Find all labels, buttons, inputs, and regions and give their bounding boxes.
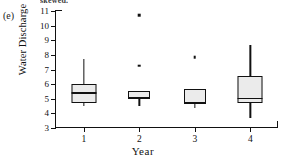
whisker-lower	[250, 103, 251, 118]
box-iqr	[71, 84, 96, 103]
y-tick-label: 3	[45, 124, 50, 133]
box-iqr	[128, 91, 150, 99]
outlier-point	[193, 56, 196, 59]
y-tick: 6	[51, 84, 56, 85]
x-tick: 2	[139, 127, 140, 132]
x-tick-label: 1	[81, 135, 86, 144]
boxplot-group	[184, 11, 206, 127]
y-tick: 9	[51, 40, 56, 41]
boxplot-group	[128, 11, 150, 127]
whisker-lower	[139, 99, 140, 106]
median-line	[71, 92, 96, 93]
plot-area: 34567891011 1234	[55, 11, 277, 128]
median-line	[128, 97, 150, 98]
y-tick-label: 4	[45, 109, 50, 118]
whisker-lower	[194, 104, 195, 108]
x-tick: 1	[84, 127, 85, 132]
y-tick: 4	[51, 113, 56, 114]
y-tick-label: 5	[45, 94, 50, 103]
whisker-lower	[83, 103, 84, 106]
y-axis-top-cap	[55, 10, 62, 11]
x-axis-title: Year	[0, 145, 286, 157]
median-line	[238, 98, 263, 99]
y-tick: 7	[51, 70, 56, 71]
median-line	[184, 102, 206, 103]
boxplot-group	[238, 11, 263, 127]
y-tick-label: 6	[45, 80, 50, 89]
cropped-caption-text: skewed.	[40, 0, 68, 3]
y-tick: 8	[51, 55, 56, 56]
outlier-point	[138, 65, 141, 68]
y-tick-label: 9	[45, 36, 50, 45]
whisker-upper	[250, 45, 251, 76]
y-tick: 11	[51, 11, 56, 12]
x-tick-label: 2	[137, 135, 142, 144]
panel-label: (e)	[3, 10, 14, 21]
x-tick-label: 3	[192, 135, 197, 144]
x-tick-label: 4	[248, 135, 253, 144]
whisker-upper	[83, 59, 84, 84]
x-axis-right-cap	[277, 121, 278, 128]
y-tick-label: 8	[45, 50, 50, 59]
y-tick: 5	[51, 99, 56, 100]
x-tick: 3	[195, 127, 196, 132]
outlier-point	[138, 14, 141, 17]
y-tick-label: 11	[40, 7, 49, 16]
y-tick: 3	[51, 128, 56, 129]
y-tick-label: 10	[40, 21, 49, 30]
y-tick-label: 7	[45, 65, 50, 74]
x-tick: 4	[250, 127, 251, 132]
y-axis-title: Water Discharge	[17, 0, 28, 90]
y-tick: 10	[51, 26, 56, 27]
boxplot-group	[71, 11, 96, 127]
